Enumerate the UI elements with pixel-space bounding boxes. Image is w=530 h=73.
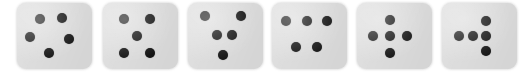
die-3-pip-top-left — [200, 11, 210, 21]
die-2-pip-top-left — [119, 14, 129, 24]
die-1-pip-middle-right — [64, 34, 74, 44]
die-4-pip-bottom-left — [291, 42, 301, 52]
die-5-pip-top — [385, 15, 395, 25]
die-1-pip-middle-left — [25, 32, 35, 42]
die-5-pip-bottom — [385, 48, 395, 58]
die-3-pip-top-right — [236, 11, 246, 21]
die-3-pip-bottom — [218, 50, 228, 60]
die-3-pip-middle-left — [212, 30, 222, 40]
die-3-pip-middle-right — [227, 30, 237, 40]
die-4-pip-top-left — [281, 16, 291, 26]
die-6-pip-row-right — [481, 31, 491, 41]
die-2-pip-bottom-left — [119, 48, 129, 58]
die-4-pip-bottom-right — [312, 42, 322, 52]
die-6-pip-lower — [481, 46, 491, 56]
die-2 — [103, 3, 178, 69]
die-6-pip-row-left — [454, 31, 464, 41]
die-4-pip-top-right — [322, 16, 332, 26]
die-1-pip-top-left — [35, 14, 45, 24]
die-2-pip-bottom-right — [145, 48, 155, 58]
die-2-pip-center — [132, 31, 142, 41]
die-1-pip-top-right — [57, 13, 67, 23]
die-1 — [17, 3, 92, 69]
die-4 — [272, 3, 347, 69]
die-6 — [442, 3, 517, 69]
die-3 — [188, 3, 263, 69]
die-5-pip-center — [385, 31, 395, 41]
dice-strip — [0, 0, 530, 73]
die-1-pip-bottom — [44, 48, 54, 58]
die-5 — [357, 3, 432, 69]
die-5-pip-right — [402, 31, 412, 41]
die-6-pip-upper — [481, 16, 491, 26]
die-4-pip-top-center — [302, 16, 312, 26]
die-2-pip-top-right — [145, 14, 155, 24]
die-5-pip-left — [368, 31, 378, 41]
die-6-pip-row-center — [468, 31, 478, 41]
